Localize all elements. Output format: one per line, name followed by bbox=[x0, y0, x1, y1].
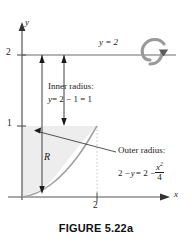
inner-radius-formula: y= 2 − 1 = 1 bbox=[48, 95, 92, 104]
figure-caption: FIGURE 5.22a bbox=[0, 222, 192, 234]
y-tick-label-1: 1 bbox=[7, 119, 12, 129]
outer-radius-formula: 2 −y= 2 − x2 4 bbox=[118, 161, 164, 182]
outer-radius-formula-lead: 2 − bbox=[118, 168, 130, 178]
line-label-y-equals-2: y = 2 bbox=[99, 38, 118, 47]
y-tick-label-2: 2 bbox=[6, 48, 11, 58]
figure-container: y x 2 1 2 y = 2 Inner radius: y= 2 − 1 =… bbox=[0, 0, 192, 242]
x-tick-label-2: 2 bbox=[93, 201, 98, 211]
shaded-region-R bbox=[22, 126, 97, 197]
inner-radius-formula-rhs: = 2 − 1 = 1 bbox=[52, 94, 92, 104]
outer-radius-arrowhead-top bbox=[39, 55, 44, 63]
fraction-denominator: 4 bbox=[155, 173, 164, 182]
inner-radius-title: Inner radius: bbox=[48, 82, 94, 91]
inner-radius-arrowhead-top bbox=[61, 55, 66, 63]
arrow-right-icon bbox=[160, 193, 170, 200]
outer-radius-title: Outer radius: bbox=[118, 146, 165, 155]
inner-radius-arrowhead-bottom bbox=[61, 118, 66, 126]
line-label-text: y = 2 bbox=[99, 37, 118, 47]
x-axis-label: x bbox=[174, 190, 178, 199]
y-axis-label: y bbox=[25, 18, 29, 27]
rotation-arrow-icon bbox=[142, 40, 168, 65]
region-label-R: R bbox=[44, 152, 50, 163]
outer-radius-formula-mid: = 2 − bbox=[136, 168, 155, 178]
outer-radius-fraction: x2 4 bbox=[155, 161, 164, 182]
fraction-numerator-exponent: 2 bbox=[160, 161, 163, 167]
